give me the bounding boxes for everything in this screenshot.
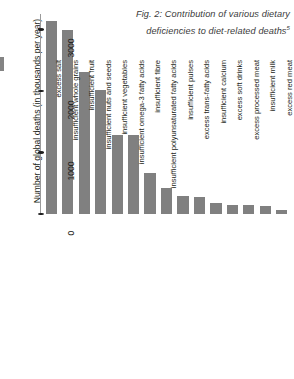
x-axis-label: excess red meat bbox=[286, 60, 294, 218]
x-axis-label: insufficient omega-3 fatty acids bbox=[138, 60, 147, 218]
figure-container: Fig. 2: Contribution of various dietary … bbox=[0, 0, 294, 379]
x-axis-label: insufficient calcium bbox=[220, 60, 229, 218]
x-axis-label: excess salt bbox=[55, 60, 64, 218]
x-axis-label: insufficient pulses bbox=[187, 60, 196, 218]
y-axis-tick bbox=[38, 90, 44, 93]
x-axis-label: excess soft drinks bbox=[236, 60, 245, 218]
x-axis-label: insufficient polyunsaturated fatty acids bbox=[170, 60, 179, 218]
x-axis-label: excess processed meat bbox=[253, 60, 262, 218]
y-axis-tick bbox=[38, 213, 44, 216]
y-axis-tick bbox=[38, 151, 44, 154]
x-axis-label: insufficient whole grains bbox=[72, 60, 81, 218]
x-axis-label: insufficient fruit bbox=[88, 60, 97, 218]
page-edge-artifact bbox=[0, 57, 4, 71]
x-axis-label: excess trans-fatty acids bbox=[203, 60, 212, 218]
x-axis-labels: excess saltinsufficient whole grainsinsu… bbox=[43, 218, 290, 376]
y-axis-line bbox=[40, 14, 41, 214]
y-axis-tick bbox=[38, 28, 44, 31]
x-axis-label: insufficient nuts and seeds bbox=[105, 60, 114, 218]
x-axis-label: insufficient milk bbox=[269, 60, 278, 218]
x-axis-label: insufficient fibre bbox=[154, 60, 163, 218]
x-axis-label: insufficient vegetables bbox=[121, 60, 130, 218]
